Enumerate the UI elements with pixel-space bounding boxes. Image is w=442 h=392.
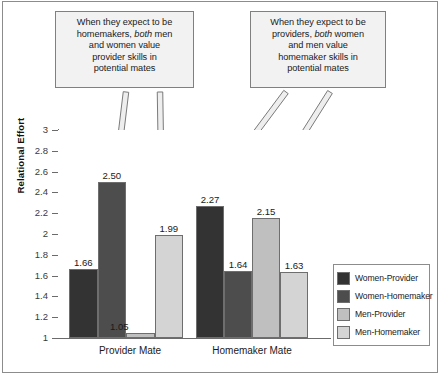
bar-value-label: 1.66 [63, 257, 104, 268]
bar-value-label: 1.05 [110, 321, 151, 332]
y-tick-label: 2.6 [22, 167, 48, 177]
y-tick-label: 1.8 [22, 250, 48, 260]
y-tick-mark [52, 338, 58, 339]
callout-left-line5: potential mates [94, 63, 156, 73]
bar-value-label: 2.50 [92, 170, 133, 181]
y-tick-label: 1.4 [22, 291, 48, 301]
bar-value-label: 1.63 [274, 260, 314, 271]
callout-right-line1: When they expect to be [270, 17, 365, 27]
y-tick-label: 2.8 [22, 146, 48, 156]
legend-item: Men-Provider [337, 305, 426, 323]
y-tick-label: 3 [22, 125, 48, 135]
plot-area [58, 130, 330, 338]
callout-left-line2b: men [152, 29, 172, 39]
legend-item: Men-Homemaker [337, 323, 426, 341]
callout-box-left: When they expect to be homemakers, both … [55, 11, 194, 88]
y-tick-label: 1.6 [22, 271, 48, 281]
callout-right-line5: potential mates [287, 63, 349, 73]
figure-root: When they expect to be homemakers, both … [0, 0, 442, 392]
bar-men-homemaker-homemaker-mate [280, 272, 308, 338]
bar-value-label: 2.15 [246, 206, 286, 217]
bar-men-provider-homemaker-mate [252, 218, 280, 338]
y-axis-title: Relational Effort [15, 101, 26, 211]
callout-box-right: When they expect to be providers, both w… [250, 11, 386, 88]
y-tick-label: 1.2 [22, 312, 48, 322]
bar-value-label: 2.27 [190, 194, 230, 205]
bar-women-homemaker-homemaker-mate [224, 271, 252, 338]
callout-right-emphasis: both [314, 29, 332, 39]
callout-left-emphasis: both [134, 29, 152, 39]
legend-swatch-icon [337, 326, 350, 339]
bar-men-homemaker-provider-mate [155, 235, 184, 338]
y-tick-label: 2 [22, 229, 48, 239]
callout-left-line2a: homemakers, [77, 29, 135, 39]
y-tick-label: 1 [22, 333, 48, 343]
legend-swatch-icon [337, 308, 350, 321]
legend-label: Women-Homemaker [355, 291, 433, 301]
y-tick-label: 2.4 [22, 187, 48, 197]
callout-right-line3: and men value [288, 40, 348, 50]
x-axis-label-provider-mate: Provider Mate [75, 345, 185, 356]
x-axis-label-homemaker-mate: Homemaker Mate [197, 345, 307, 356]
bar-men-provider-provider-mate [126, 333, 155, 338]
legend-swatch-icon [337, 290, 350, 303]
callout-left-line3: and women value [89, 40, 160, 50]
callout-left-line1: When they expect to be [77, 17, 172, 27]
legend-swatch-icon [337, 272, 350, 285]
chart-legend: Women-ProviderWomen-HomemakerMen-Provide… [333, 264, 430, 346]
callout-right-line2b: women [332, 29, 364, 39]
legend-label: Men-Provider [355, 309, 405, 319]
y-tick-label: 2.2 [22, 208, 48, 218]
callout-right-line4: homemaker skills in [278, 52, 358, 62]
legend-item: Women-Homemaker [337, 287, 426, 305]
legend-item: Women-Provider [337, 269, 426, 287]
legend-label: Men-Homemaker [355, 327, 420, 337]
callout-left-line4: provider skills in [92, 52, 156, 62]
legend-label: Women-Provider [355, 273, 418, 283]
bar-value-label: 1.64 [218, 259, 258, 270]
callout-right-line2a: providers, [272, 29, 314, 39]
bar-women-provider-homemaker-mate [196, 206, 224, 338]
bar-women-provider-provider-mate [69, 269, 98, 338]
x-axis-line [58, 338, 331, 339]
bar-value-label: 1.99 [149, 223, 190, 234]
